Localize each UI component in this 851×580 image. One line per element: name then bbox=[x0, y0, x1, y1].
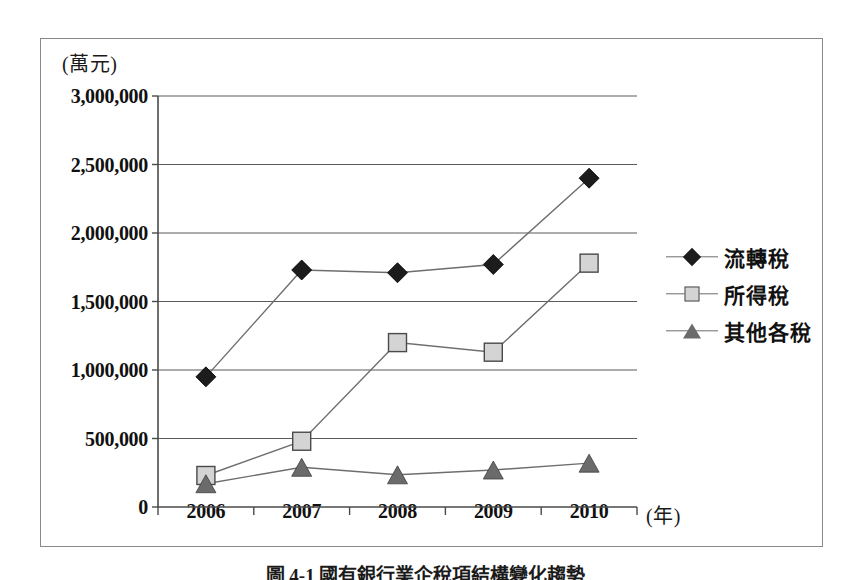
legend-item-1[interactable]: 流轉稅 bbox=[666, 238, 812, 275]
x-tick-label: 2009 bbox=[474, 500, 513, 523]
x-tick-label: 2006 bbox=[186, 500, 225, 523]
y-tick-label: 2,500,000 bbox=[28, 153, 148, 176]
y-tick-label: 0 bbox=[28, 496, 148, 519]
legend-marker-diamond-icon bbox=[666, 245, 718, 269]
legend-item-2[interactable]: 所得稅 bbox=[666, 275, 812, 312]
x-tick-label: 2010 bbox=[570, 500, 609, 523]
series-markers bbox=[196, 454, 599, 493]
y-tick-label: 500,000 bbox=[28, 427, 148, 450]
x-axis-unit-label: (年) bbox=[646, 500, 681, 529]
chart-legend: 流轉稅所得稅其他各稅 bbox=[666, 238, 812, 349]
y-axis-unit-label: (萬元) bbox=[62, 48, 117, 77]
legend-label: 其他各稅 bbox=[724, 316, 812, 346]
legend-item-3[interactable]: 其他各稅 bbox=[666, 312, 812, 349]
y-tick-label: 3,000,000 bbox=[28, 85, 148, 108]
legend-label: 流轉稅 bbox=[724, 242, 790, 272]
chart-area: (萬元) (年) 0500,0001,000,0001,500,0002,000… bbox=[0, 0, 851, 580]
legend-marker-triangle-icon bbox=[666, 319, 718, 343]
legend-label: 所得稅 bbox=[724, 279, 790, 309]
series-markers bbox=[197, 254, 598, 484]
y-tick-label: 1,500,000 bbox=[28, 290, 148, 313]
x-tick-label: 2008 bbox=[378, 500, 417, 523]
legend-marker-square-icon bbox=[666, 282, 718, 306]
y-tick-label: 2,000,000 bbox=[28, 222, 148, 245]
figure-caption: 圖 4-1 國有銀行業企稅項結構變化趨勢 bbox=[0, 560, 851, 580]
series-markers bbox=[196, 168, 599, 387]
x-tick-label: 2007 bbox=[282, 500, 321, 523]
y-tick-label: 1,000,000 bbox=[28, 359, 148, 382]
